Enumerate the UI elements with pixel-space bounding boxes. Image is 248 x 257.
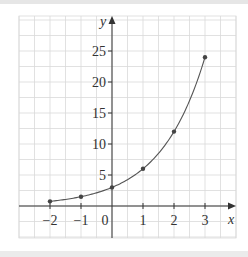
y-tick-label: 20	[92, 75, 106, 90]
x-tick-label: 0	[102, 213, 109, 228]
x-tick-label: 1	[140, 213, 147, 228]
data-point-marker	[48, 199, 52, 203]
data-point-marker	[172, 129, 176, 133]
x-axis-label: x	[227, 212, 235, 227]
data-point-marker	[79, 195, 83, 199]
x-tick-label: −2	[43, 213, 58, 228]
exponential-chart: x y −2−10123510152025	[0, 0, 248, 257]
data-point-marker	[141, 167, 145, 171]
y-tick-label: 10	[92, 137, 106, 152]
y-tick-label: 15	[92, 106, 106, 121]
x-tick-label: 2	[171, 213, 178, 228]
grid-lines	[19, 16, 236, 238]
x-tick-label: 3	[202, 213, 209, 228]
x-tick-label: −1	[74, 213, 89, 228]
bottom-frame-band	[0, 251, 248, 257]
y-axis-label: y	[98, 14, 107, 29]
tick-labels: −2−10123510152025	[43, 44, 209, 228]
data-point-marker	[110, 185, 114, 189]
data-point-marker	[203, 55, 207, 59]
y-tick-label: 25	[92, 44, 106, 59]
x-axis-arrow-icon	[228, 203, 236, 210]
y-tick-label: 5	[99, 168, 106, 183]
